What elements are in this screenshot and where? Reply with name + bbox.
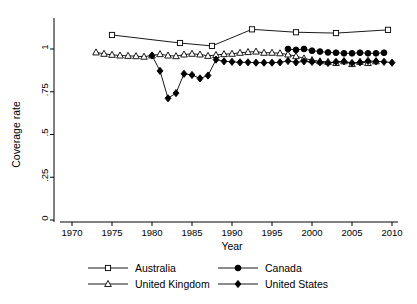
marker-open-triangle: [253, 48, 260, 54]
marker-open-square: [105, 265, 110, 270]
data-series-group: [93, 27, 395, 102]
marker-open-triangle: [269, 49, 276, 55]
series-australia: [109, 27, 390, 49]
marker-filled-diamond: [221, 58, 227, 65]
marker-open-square: [333, 30, 338, 35]
marker-filled-diamond: [293, 59, 299, 66]
marker-filled-circle: [341, 50, 347, 56]
marker-filled-circle: [301, 46, 307, 52]
marker-open-square: [209, 43, 214, 48]
legend: AustraliaCanadaUnited KingdomUnited Stat…: [88, 262, 328, 290]
marker-filled-diamond: [357, 59, 363, 66]
chart-figure: 0.25.5.751197019751980198519901995200020…: [0, 0, 417, 304]
marker-filled-diamond: [245, 59, 251, 66]
marker-filled-diamond: [277, 59, 283, 66]
legend-item-united-states[interactable]: United States: [218, 278, 328, 290]
legend-label: Canada: [265, 262, 302, 274]
marker-filled-diamond: [235, 280, 241, 287]
series-united-states: [149, 52, 395, 102]
coverage-rate-line-chart: 0.25.5.751197019751980198519901995200020…: [0, 0, 417, 304]
marker-filled-diamond: [181, 70, 187, 77]
marker-filled-diamond: [253, 59, 259, 66]
marker-filled-diamond: [389, 59, 395, 66]
y-tick-label: 0: [39, 215, 50, 220]
x-tick-label: 1995: [261, 227, 282, 238]
marker-filled-diamond: [325, 59, 331, 66]
y-axis-title: Coverage rate: [10, 101, 22, 168]
x-tick-label: 1980: [141, 227, 162, 238]
x-tick-label: 1990: [221, 227, 242, 238]
marker-open-square: [109, 32, 114, 37]
marker-filled-diamond: [317, 59, 323, 66]
marker-filled-diamond: [173, 90, 179, 97]
legend-label: United Kingdom: [135, 278, 210, 290]
marker-filled-diamond: [157, 67, 163, 74]
marker-filled-circle: [357, 50, 363, 56]
x-axis-title: Year: [221, 240, 243, 252]
marker-filled-circle: [333, 50, 339, 56]
marker-open-square: [249, 27, 254, 32]
legend-label: United States: [265, 278, 328, 290]
marker-filled-circle: [349, 50, 355, 56]
marker-open-triangle: [157, 51, 164, 57]
axes: [50, 18, 398, 226]
marker-filled-circle: [381, 50, 387, 56]
marker-filled-circle: [317, 49, 323, 55]
marker-filled-diamond: [205, 72, 211, 79]
marker-filled-diamond: [381, 58, 387, 65]
series-canada: [285, 46, 387, 56]
marker-open-square: [293, 30, 298, 35]
marker-filled-diamond: [285, 57, 291, 64]
x-tick-label: 2000: [301, 227, 322, 238]
marker-open-triangle: [189, 50, 196, 56]
marker-filled-circle: [309, 48, 315, 54]
marker-filled-diamond: [189, 71, 195, 78]
marker-filled-diamond: [197, 75, 203, 82]
y-tick-label: .75: [39, 83, 50, 96]
marker-filled-circle: [365, 50, 371, 56]
marker-filled-diamond: [229, 58, 235, 65]
marker-filled-diamond: [269, 59, 275, 66]
x-tick-label: 1975: [101, 227, 122, 238]
marker-filled-diamond: [237, 59, 243, 66]
marker-open-square: [177, 40, 182, 45]
marker-open-square: [385, 27, 390, 32]
marker-filled-diamond: [165, 95, 171, 102]
x-tick-label: 1985: [181, 227, 202, 238]
x-tick-label: 2010: [381, 227, 402, 238]
marker-filled-circle: [235, 265, 241, 271]
y-tick-label: .25: [39, 169, 50, 182]
x-tick-label: 1970: [61, 227, 82, 238]
legend-item-canada[interactable]: Canada: [218, 262, 302, 274]
y-tick-label: .5: [39, 129, 50, 137]
marker-open-triangle: [105, 281, 112, 287]
y-tick-label: 1: [39, 44, 50, 49]
marker-filled-circle: [325, 50, 331, 56]
marker-open-triangle: [93, 49, 100, 55]
x-tick-label: 2005: [341, 227, 362, 238]
legend-label: Australia: [135, 262, 176, 274]
legend-item-australia[interactable]: Australia: [88, 262, 176, 274]
legend-item-united-kingdom[interactable]: United Kingdom: [88, 278, 210, 290]
marker-filled-circle: [373, 50, 379, 56]
marker-filled-diamond: [261, 59, 267, 66]
